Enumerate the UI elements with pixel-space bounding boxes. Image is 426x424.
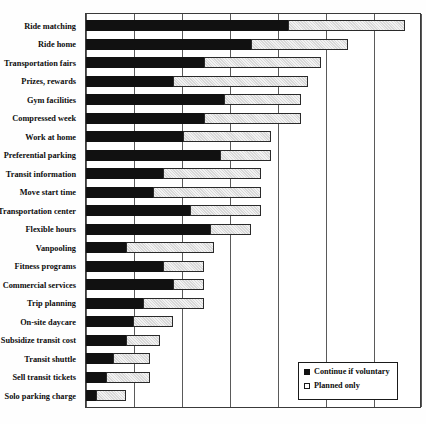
- legend-item-continue-if-voluntary: Continue if voluntary: [304, 367, 393, 376]
- bar-segment-continue-if-voluntary: [86, 316, 133, 327]
- stacked-bar: [86, 187, 261, 198]
- category-label-compressed-week: Compressed week: [0, 110, 81, 129]
- bar-segment-planned-only: [173, 76, 307, 87]
- bar-row: Preferential parking: [86, 147, 420, 166]
- category-label-flexible-hours: Flexible hours: [0, 221, 81, 240]
- category-label-prizes-rewards: Prizes, rewards: [0, 73, 81, 92]
- chart-figure: Ride matchingRide homeTransportation fai…: [0, 0, 426, 424]
- bar-segment-planned-only: [143, 298, 203, 309]
- bar-row: Transit information: [86, 165, 420, 184]
- bar-row: Move start time: [86, 184, 420, 203]
- category-label-ride-matching: Ride matching: [0, 17, 81, 36]
- category-label-gym-facilities: Gym facilities: [0, 91, 81, 110]
- bar-segment-planned-only: [163, 261, 203, 272]
- bar-segment-continue-if-voluntary: [86, 335, 126, 346]
- bar-row: Compressed week: [86, 110, 420, 129]
- chart-legend: Continue if voluntary Planned only: [298, 362, 398, 400]
- bar-segment-planned-only: [204, 113, 301, 124]
- bar-segment-planned-only: [204, 57, 322, 68]
- gridline-7: [421, 14, 422, 407]
- bar-segment-planned-only: [190, 205, 261, 216]
- category-label-transportation-center: Transportation center: [0, 202, 81, 221]
- category-label-ride-home: Ride home: [0, 36, 81, 55]
- legend-label-continue-if-voluntary: Continue if voluntary: [314, 367, 390, 376]
- stacked-bar: [86, 242, 214, 253]
- stacked-bar: [86, 168, 261, 179]
- bar-segment-planned-only: [251, 39, 348, 50]
- bar-row: Transportation center: [86, 202, 420, 221]
- bar-segment-planned-only: [183, 131, 270, 142]
- bar-segment-continue-if-voluntary: [86, 131, 183, 142]
- stacked-bar: [86, 279, 204, 290]
- bar-row: Subsidize transit cost: [86, 332, 420, 351]
- bar-row: Vanpooling: [86, 239, 420, 258]
- bar-segment-continue-if-voluntary: [86, 261, 163, 272]
- bar-segment-continue-if-voluntary: [86, 279, 173, 290]
- stacked-bar: [86, 224, 251, 235]
- stacked-bar: [86, 205, 261, 216]
- category-label-vanpooling: Vanpooling: [0, 239, 81, 258]
- bar-row: Flexible hours: [86, 221, 420, 240]
- category-label-preferential-parking: Preferential parking: [0, 147, 81, 166]
- bar-segment-continue-if-voluntary: [86, 205, 190, 216]
- bar-segment-continue-if-voluntary: [86, 39, 251, 50]
- category-label-sell-transit-tickets: Sell transit tickets: [0, 369, 81, 388]
- bar-segment-continue-if-voluntary: [86, 20, 288, 31]
- stacked-bar: [86, 113, 301, 124]
- stacked-bar: [86, 39, 348, 50]
- category-label-work-at-home: Work at home: [0, 128, 81, 147]
- category-label-trip-planning: Trip planning: [0, 295, 81, 314]
- bar-row: Fitness programs: [86, 258, 420, 277]
- bar-segment-continue-if-voluntary: [86, 224, 210, 235]
- stacked-bar: [86, 353, 150, 364]
- bar-segment-continue-if-voluntary: [86, 113, 204, 124]
- bar-row: Commercial services: [86, 276, 420, 295]
- category-label-transit-information: Transit information: [0, 165, 81, 184]
- bar-row: Ride matching: [86, 17, 420, 36]
- category-label-fitness-programs: Fitness programs: [0, 258, 81, 277]
- bar-segment-continue-if-voluntary: [86, 150, 220, 161]
- bar-segment-planned-only: [126, 242, 213, 253]
- stacked-bar: [86, 57, 321, 68]
- bar-segment-planned-only: [163, 168, 260, 179]
- category-label-transportation-fairs: Transportation fairs: [0, 54, 81, 73]
- category-label-transit-shuttle: Transit shuttle: [0, 350, 81, 369]
- legend-swatch-dark-icon: [304, 369, 310, 375]
- bar-segment-continue-if-voluntary: [86, 372, 106, 383]
- bar-row: Transportation fairs: [86, 54, 420, 73]
- bar-segment-continue-if-voluntary: [86, 94, 224, 105]
- stacked-bar: [86, 335, 160, 346]
- bar-segment-continue-if-voluntary: [86, 57, 204, 68]
- stacked-bar: [86, 372, 150, 383]
- bar-segment-continue-if-voluntary: [86, 168, 163, 179]
- bar-segment-planned-only: [133, 316, 173, 327]
- bar-segment-planned-only: [210, 224, 250, 235]
- bar-segment-planned-only: [96, 390, 126, 401]
- category-label-subsidize-transit-cost: Subsidize transit cost: [0, 332, 81, 351]
- category-label-move-start-time: Move start time: [0, 184, 81, 203]
- bar-row: Work at home: [86, 128, 420, 147]
- bar-row: On-site daycare: [86, 313, 420, 332]
- bar-segment-planned-only: [220, 150, 270, 161]
- bar-segment-planned-only: [153, 187, 261, 198]
- bar-row: Ride home: [86, 36, 420, 55]
- stacked-bar: [86, 261, 204, 272]
- stacked-bar: [86, 390, 126, 401]
- legend-label-planned-only: Planned only: [314, 381, 360, 390]
- bar-segment-planned-only: [106, 372, 150, 383]
- plot-area: Ride matchingRide homeTransportation fai…: [85, 13, 421, 408]
- stacked-bar: [86, 20, 405, 31]
- bar-segment-planned-only: [173, 279, 203, 290]
- legend-swatch-light-icon: [304, 383, 310, 389]
- bar-row: Gym facilities: [86, 91, 420, 110]
- bar-segment-continue-if-voluntary: [86, 390, 96, 401]
- category-label-solo-parking-charge: Solo parking charge: [0, 387, 81, 406]
- stacked-bar: [86, 94, 301, 105]
- bar-segment-planned-only: [288, 20, 406, 31]
- stacked-bar: [86, 76, 308, 87]
- stacked-bar: [86, 298, 204, 309]
- bar-segment-planned-only: [126, 335, 160, 346]
- stacked-bar: [86, 150, 271, 161]
- stacked-bar: [86, 316, 173, 327]
- stacked-bar: [86, 131, 271, 142]
